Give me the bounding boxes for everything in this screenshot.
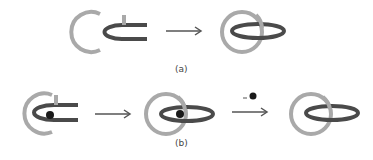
panel-a-open-rings — [71, 12, 147, 52]
diagram-canvas — [0, 0, 373, 160]
particle-dot-icon — [176, 110, 184, 118]
panel-b-arrow-2 — [232, 93, 267, 117]
light-open-ring — [71, 12, 100, 52]
panel-b-open-rings — [24, 94, 78, 134]
panel-b-label: (b) — [175, 138, 188, 148]
dark-open-ring — [105, 25, 148, 39]
panel-b-linked-rings-with-dot — [146, 94, 213, 134]
dark-open-ring — [34, 105, 78, 120]
particle-dot-icon — [46, 111, 54, 119]
panel-a-arrow — [166, 27, 201, 35]
dark-closed-ring — [232, 24, 284, 38]
particle-dot-icon — [250, 93, 257, 100]
panel-b-linked-rings — [291, 94, 358, 134]
panel-a-linked-rings — [222, 12, 284, 52]
light-closed-ring — [222, 12, 262, 52]
panel-b-arrow-1 — [95, 110, 130, 118]
panel-a-label: (a) — [175, 64, 188, 74]
